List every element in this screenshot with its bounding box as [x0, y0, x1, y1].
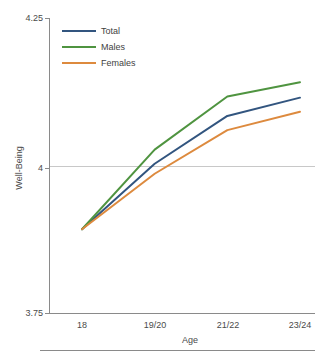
y-axis-title: Well-Being — [14, 146, 24, 189]
chart-background — [0, 0, 322, 359]
y-tick-label-mid: 4 — [38, 163, 43, 173]
x-tick-label-19-20: 19/20 — [144, 320, 167, 330]
y-tick-label-bottom: 3.75 — [25, 308, 43, 318]
legend-label-total: Total — [101, 26, 120, 36]
y-tick-label-top: 4.25 — [25, 13, 43, 23]
legend-label-females: Females — [101, 58, 136, 68]
chart-container: 4.25 4 3.75 Well-Being 18 19/20 21/22 23… — [0, 0, 322, 359]
well-being-by-age-line-chart: 4.25 4 3.75 Well-Being 18 19/20 21/22 23… — [0, 0, 322, 359]
x-tick-label-21-22: 21/22 — [217, 320, 240, 330]
x-tick-label-18: 18 — [77, 320, 87, 330]
legend-label-males: Males — [101, 42, 126, 52]
x-axis-title: Age — [182, 335, 198, 345]
x-tick-label-23-24: 23/24 — [289, 320, 312, 330]
